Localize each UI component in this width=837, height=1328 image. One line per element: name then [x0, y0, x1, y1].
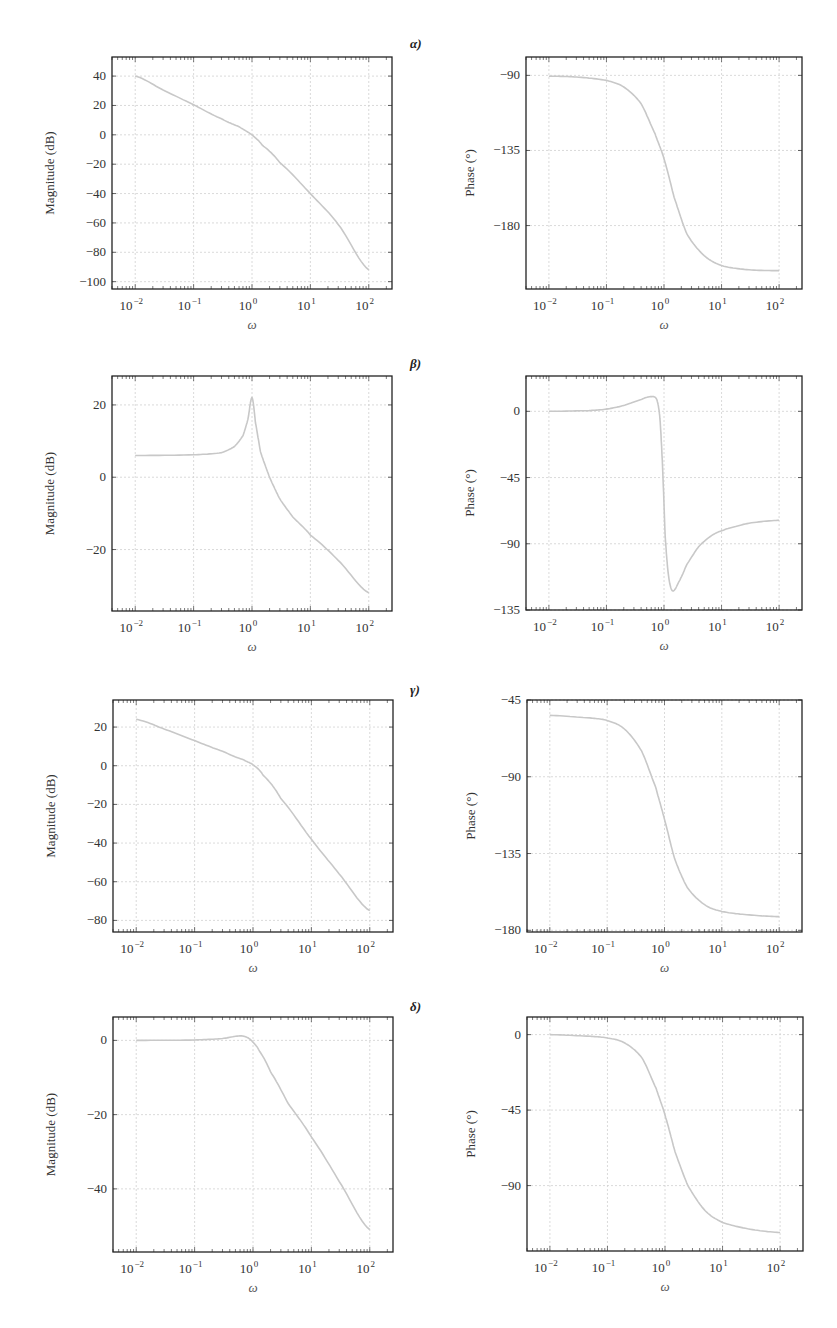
y-tick-label: −135	[494, 846, 521, 861]
y-tick-label: 0	[514, 403, 521, 418]
x-tick-label: 102	[356, 296, 375, 313]
y-tick-label: 40	[93, 68, 106, 83]
alpha-phase-chart: −90−135−18010−210−1100101102ωPhase (°)	[462, 57, 802, 332]
y-tick-label: −80	[86, 244, 106, 259]
x-tick-label: 102	[356, 618, 375, 635]
x-tick-label: 101	[298, 939, 317, 956]
x-axis-label: ω	[247, 317, 256, 332]
x-tick-label: 10−2	[534, 1258, 558, 1275]
x-tick-label: 102	[766, 617, 785, 634]
x-tick-label: 102	[766, 296, 785, 313]
y-tick-label: −60	[86, 215, 106, 230]
x-axis-label: ω	[248, 1280, 257, 1295]
y-tick-label: 20	[93, 97, 106, 112]
y-tick-label: −40	[87, 1181, 107, 1196]
y-tick-label: −20	[87, 796, 107, 811]
y-tick-label: 0	[515, 1027, 522, 1042]
x-tick-label: 100	[239, 618, 258, 635]
x-tick-label: 100	[652, 1258, 671, 1275]
x-tick-label: 10−2	[533, 296, 557, 313]
delta-magnitude-chart: 0−20−4010−210−1100101102ωMagnitude (dB)	[43, 1017, 393, 1295]
x-tick-label: 100	[240, 939, 259, 956]
y-axis-label: Phase (°)	[463, 792, 478, 839]
x-tick-label: 10−2	[120, 1259, 144, 1276]
y-tick-label: −45	[500, 470, 520, 485]
beta-phase-chart: 0−45−90−13510−210−1100101102ωPhase (°)	[462, 376, 802, 653]
x-tick-label: 10−1	[178, 296, 202, 313]
x-tick-label: 10−2	[534, 939, 558, 956]
y-tick-label: −20	[86, 542, 106, 557]
x-tick-label: 101	[297, 618, 316, 635]
y-tick-label: 0	[101, 1032, 108, 1047]
y-axis-label: Magnitude (dB)	[42, 452, 57, 535]
y-axis-label: Magnitude (dB)	[42, 131, 57, 214]
x-tick-label: 100	[240, 1259, 259, 1276]
x-axis-label: ω	[659, 638, 668, 653]
x-axis-label: ω	[659, 317, 668, 332]
alpha-magnitude-chart: 40200−20−40−60−80−10010−210−1100101102ωM…	[42, 57, 392, 332]
y-tick-label: −90	[501, 769, 521, 784]
y-tick-label: 0	[100, 127, 107, 142]
x-tick-label: 102	[767, 1258, 786, 1275]
x-axis-label: ω	[247, 639, 256, 654]
y-tick-label: −20	[87, 1107, 107, 1122]
gamma-phase-chart: −45−90−135−18010−210−1100101102ωPhase (°…	[463, 692, 802, 975]
x-tick-label: 101	[709, 1258, 728, 1275]
x-axis-label: ω	[248, 960, 257, 975]
y-tick-label: 20	[94, 719, 107, 734]
delta-magnitude-curve	[136, 1036, 370, 1230]
y-tick-label: −135	[493, 142, 520, 157]
x-tick-label: 101	[708, 296, 727, 313]
x-axis-label: ω	[660, 960, 669, 975]
x-tick-label: 10−2	[119, 296, 143, 313]
y-tick-label: 20	[93, 397, 106, 412]
y-axis-label: Phase (°)	[462, 469, 477, 516]
x-tick-label: 10−1	[591, 617, 615, 634]
y-tick-label: −40	[86, 186, 106, 201]
x-tick-label: 10−1	[591, 296, 615, 313]
y-tick-label: −180	[493, 218, 520, 233]
y-axis-label: Phase (°)	[462, 149, 477, 196]
y-tick-label: −90	[500, 536, 520, 551]
beta-magnitude-curve	[135, 398, 369, 593]
x-tick-label: 102	[357, 939, 376, 956]
x-tick-label: 10−1	[592, 1258, 616, 1275]
beta-magnitude-chart: 200−2010−210−1100101102ωMagnitude (dB)	[42, 376, 392, 654]
bode-plots-canvas: 40200−20−40−60−80−10010−210−1100101102ωM…	[0, 0, 837, 1328]
x-tick-label: 101	[298, 1259, 317, 1276]
y-axis-label: Magnitude (dB)	[43, 774, 58, 857]
y-axis-label: Magnitude (dB)	[43, 1093, 58, 1176]
y-tick-label: −40	[87, 835, 107, 850]
x-tick-label: 101	[297, 296, 316, 313]
x-tick-label: 10−1	[591, 939, 615, 956]
x-tick-label: 10−2	[119, 618, 143, 635]
x-tick-label: 10−1	[179, 1259, 203, 1276]
y-tick-label: −45	[501, 692, 521, 707]
y-tick-label: −60	[87, 874, 107, 889]
y-tick-label: −180	[494, 922, 521, 937]
y-tick-label: −80	[87, 912, 107, 927]
x-tick-label: 10−2	[120, 939, 144, 956]
y-axis-label: Phase (°)	[463, 1110, 478, 1157]
x-tick-label: 100	[239, 296, 258, 313]
x-tick-label: 101	[709, 939, 728, 956]
x-tick-label: 102	[357, 1259, 376, 1276]
x-tick-label: 10−2	[533, 617, 557, 634]
x-tick-label: 100	[651, 939, 670, 956]
x-tick-label: 10−1	[178, 618, 202, 635]
y-tick-label: 0	[100, 469, 107, 484]
x-tick-label: 100	[651, 617, 670, 634]
y-tick-label: −90	[501, 1178, 521, 1193]
x-tick-label: 100	[651, 296, 670, 313]
x-axis-label: ω	[660, 1279, 669, 1294]
x-tick-label: 10−1	[179, 939, 203, 956]
gamma-magnitude-chart: 200−20−40−60−8010−210−1100101102ωMagnitu…	[43, 700, 393, 975]
y-tick-label: 0	[101, 758, 108, 773]
y-tick-label: −20	[86, 156, 106, 171]
y-tick-label: −100	[79, 274, 106, 289]
x-tick-label: 101	[708, 617, 727, 634]
y-tick-label: −135	[493, 602, 520, 617]
x-tick-label: 102	[766, 939, 785, 956]
y-tick-label: −45	[501, 1102, 521, 1117]
delta-phase-chart: 0−45−9010−210−1100101102ωPhase (°)	[463, 1017, 803, 1294]
